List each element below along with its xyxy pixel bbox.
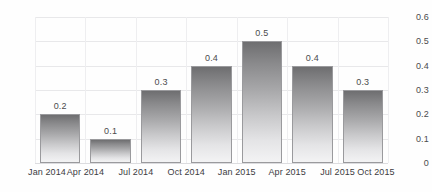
y-axis-tick-label: 0.2 (416, 109, 429, 119)
bar-value-label: 0.3 (356, 77, 369, 87)
bar (141, 90, 181, 163)
bar-value-label: 0.5 (255, 28, 268, 38)
gridline-y-0 (35, 163, 388, 164)
gridline-x-7 (388, 17, 389, 163)
bar (191, 66, 231, 163)
y-axis-tick-label: 0.1 (416, 134, 429, 144)
bar-value-label: 0.4 (205, 53, 218, 63)
bar (90, 139, 130, 163)
bar-value-label: 0.3 (155, 77, 168, 87)
y-axis-tick-label: 0.6 (416, 12, 429, 22)
x-axis-tick-label: Jan 2015 (218, 167, 256, 177)
x-axis-tick-label: Oct 2014 (168, 167, 205, 177)
y-axis-tick-label: 0.5 (416, 36, 429, 46)
plot-area (35, 17, 388, 163)
y-axis-tick-label: 0 (424, 158, 429, 168)
bars-layer (35, 17, 388, 163)
y-axis-tick-label: 0.4 (416, 61, 429, 71)
bar-value-label: 0.2 (54, 101, 67, 111)
x-axis-tick-label: Oct 2015 (357, 167, 394, 177)
bar-value-label: 0.1 (104, 126, 117, 136)
x-axis-tick-label: Jul 2015 (320, 167, 355, 177)
bar (292, 66, 332, 163)
x-axis-tick-label: Apr 2015 (268, 167, 305, 177)
bar (343, 90, 383, 163)
x-axis-tick-label: Jan 2014 (28, 167, 66, 177)
bar-value-label: 0.4 (306, 53, 319, 63)
bar (242, 41, 282, 163)
y-axis-tick-label: 0.3 (416, 85, 429, 95)
x-axis-tick-label: Jul 2014 (118, 167, 153, 177)
bar (40, 114, 80, 163)
bar-chart: 0.20.10.30.40.50.40.3 00.10.20.30.40.50.… (0, 0, 432, 192)
x-axis-tick-label: Apr 2014 (67, 167, 104, 177)
